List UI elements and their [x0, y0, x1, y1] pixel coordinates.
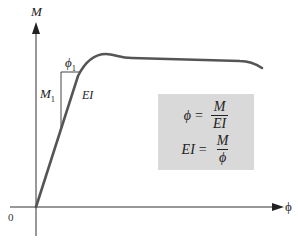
x-axis-label: ϕ: [285, 200, 292, 213]
formula1-denominator: EI: [211, 115, 228, 131]
formula1-fraction: M EI: [211, 100, 228, 131]
formula2-fraction: M ϕ: [215, 134, 231, 165]
formula1-lhs: ϕ: [184, 108, 191, 124]
formula2-numerator: M: [215, 134, 231, 149]
phi1-label: ϕ1: [65, 56, 76, 72]
moment-curvature-diagram: M ϕ 0 ϕ1 M1 EI ϕ = M EI EI = M ϕ: [0, 0, 298, 243]
ei-slope-label: EI: [82, 89, 93, 101]
formula1-numerator: M: [212, 100, 228, 115]
formula-curvature: ϕ = M EI: [158, 100, 254, 131]
y-axis-arrow-icon: [32, 22, 40, 34]
origin-label: 0: [8, 211, 14, 223]
x-axis-arrow-icon: [272, 203, 284, 211]
formula1-eq: =: [195, 108, 203, 124]
y-axis-label: M: [31, 5, 42, 18]
formula-stiffness: EI = M ϕ: [158, 134, 254, 165]
formula2-eq: =: [199, 142, 207, 158]
m1-label: M1: [40, 87, 55, 103]
formula-box: ϕ = M EI EI = M ϕ: [158, 94, 254, 170]
formula2-lhs: EI: [182, 142, 195, 158]
formula2-denominator: ϕ: [217, 149, 228, 165]
